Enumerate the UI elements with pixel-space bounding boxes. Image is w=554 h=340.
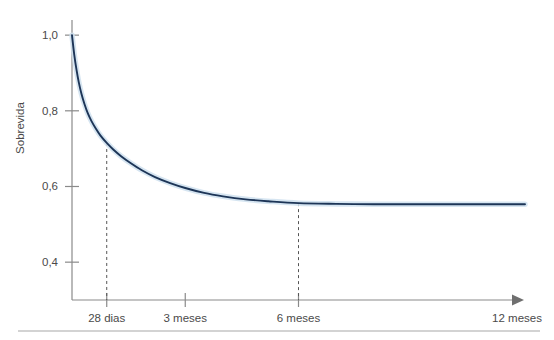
x-axis-tick-label: 28 dias	[88, 312, 125, 324]
chart-background	[0, 0, 554, 340]
y-axis-tick-label: 0,4	[42, 256, 59, 268]
y-axis-tick-label: 0,8	[42, 105, 58, 117]
x-axis-tick-label: 12 meses	[492, 312, 542, 324]
survival-chart-svg: 1,00,80,60,4 28 dias3 meses6 meses12 mes…	[0, 0, 554, 340]
y-axis-title: Sobrevida	[14, 102, 26, 154]
x-axis-tick-label: 6 meses	[277, 312, 321, 324]
x-axis-tick-label: 3 meses	[164, 312, 208, 324]
y-axis-tick-label: 0,6	[42, 180, 58, 192]
survival-chart-figure: 1,00,80,60,4 28 dias3 meses6 meses12 mes…	[0, 0, 554, 340]
y-axis-tick-label: 1,0	[42, 29, 58, 41]
